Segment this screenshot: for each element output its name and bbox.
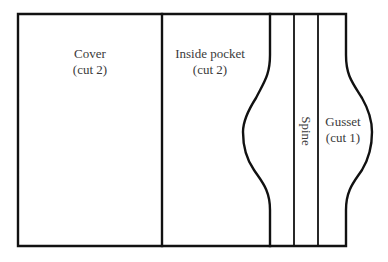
pocket-curved-edge <box>243 14 270 246</box>
gusset-label: Gusset <box>325 114 361 129</box>
spine-label: Spine <box>299 116 314 146</box>
cover-note: (cut 2) <box>73 62 107 77</box>
pattern-diagram: Cover (cut 2) Inside pocket (cut 2) Spin… <box>0 0 388 262</box>
gusset-note: (cut 1) <box>326 130 360 145</box>
inside-pocket-label: Inside pocket <box>175 46 245 61</box>
cover-label: Cover <box>74 46 106 61</box>
inside-pocket-note: (cut 2) <box>193 62 227 77</box>
